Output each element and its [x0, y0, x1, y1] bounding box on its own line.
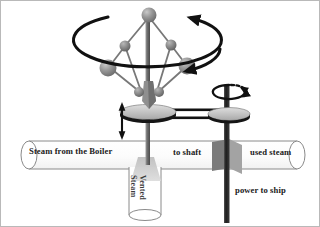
label-vented-steam: Vented Steam [129, 175, 147, 189]
pipe-right-opening [289, 141, 305, 169]
sleeve-ball-right [154, 87, 164, 97]
output-shaft [224, 85, 230, 223]
label-to-shaft: to shaft [173, 148, 201, 157]
vent-pipe-opening [129, 210, 161, 221]
label-steam-from-boiler: Steam from the Boiler [29, 147, 112, 156]
label-used-steam: used steam [250, 148, 291, 157]
joint-ball-left [120, 41, 131, 52]
vented-steam-line-2: Steam [129, 175, 138, 189]
pivot-ball [142, 8, 157, 23]
vented-steam-line-1: Vented [138, 175, 147, 189]
shaft-rotation-arrow [213, 85, 247, 99]
joint-ball-right [166, 40, 177, 51]
sleeve-ball-left [134, 87, 144, 97]
drive-pulley [208, 108, 250, 124]
label-power-to-ship: power to ship [235, 186, 286, 195]
governor-diagram: Steam from the Boiler to shaft used stea… [0, 0, 320, 227]
